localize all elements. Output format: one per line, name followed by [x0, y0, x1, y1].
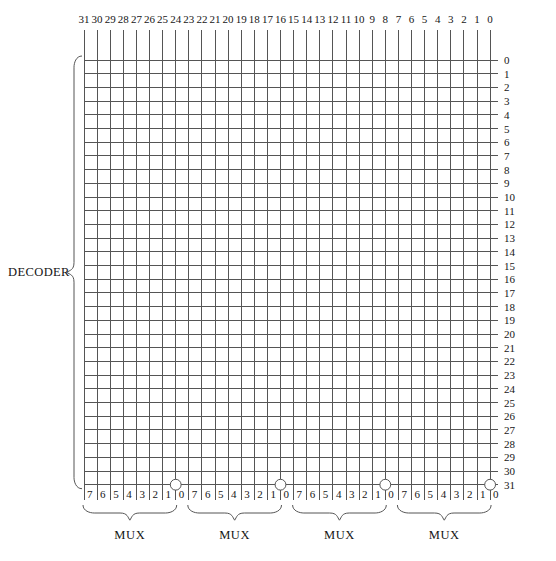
column-label: 18 [247, 14, 261, 25]
mux-brace [293, 505, 387, 520]
column-label: 4 [431, 14, 445, 25]
column-label: 22 [195, 14, 209, 25]
column-label: 12 [326, 14, 340, 25]
column-label: 30 [90, 14, 104, 25]
row-label: 16 [504, 274, 524, 285]
row-label: 21 [504, 343, 524, 354]
row-label: 29 [504, 452, 524, 463]
mux-input-label: 2 [467, 489, 480, 500]
mux-input-label: 5 [218, 489, 231, 500]
column-label: 7 [391, 14, 405, 25]
mux-input-label: 7 [297, 489, 310, 500]
row-label: 15 [504, 261, 524, 272]
row-label: 10 [504, 192, 524, 203]
column-label: 23 [182, 14, 196, 25]
row-label: 8 [504, 165, 524, 176]
row-label: 14 [504, 247, 524, 258]
column-label: 19 [234, 14, 248, 25]
mux-input-label: 6 [205, 489, 218, 500]
mux-brace [83, 505, 177, 520]
mux-input-label: 1 [480, 489, 493, 500]
mux-input-label: 4 [231, 489, 244, 500]
mux-group-label: MUX [74, 528, 186, 543]
mux-input-label: 7 [87, 489, 100, 500]
column-label: 8 [378, 14, 392, 25]
row-label: 30 [504, 466, 524, 477]
mux-input-label: 6 [100, 489, 113, 500]
mux-input-label: 0 [179, 489, 192, 500]
crossbar-diagram: 3130292827262524232221201918171615141312… [0, 0, 556, 561]
row-label: 0 [504, 55, 524, 66]
column-label: 11 [339, 14, 353, 25]
mux-input-label: 2 [362, 489, 375, 500]
column-label: 27 [129, 14, 143, 25]
mux-input-label: 5 [113, 489, 126, 500]
row-label: 2 [504, 82, 524, 93]
row-label: 18 [504, 302, 524, 313]
column-label: 2 [457, 14, 471, 25]
row-label: 9 [504, 178, 524, 189]
mux-input-label: 4 [441, 489, 454, 500]
row-label: 25 [504, 398, 524, 409]
column-label: 17 [260, 14, 274, 25]
mux-input-label: 3 [139, 489, 152, 500]
column-label: 9 [365, 14, 379, 25]
row-label: 23 [504, 370, 524, 381]
mux-brace [188, 505, 282, 520]
decoder-label: DECODER [8, 265, 70, 280]
mux-input-label: 3 [349, 489, 362, 500]
row-label: 6 [504, 137, 524, 148]
row-label: 28 [504, 439, 524, 450]
column-label: 16 [274, 14, 288, 25]
mux-input-label: 7 [192, 489, 205, 500]
mux-input-label: 5 [323, 489, 336, 500]
column-label: 26 [143, 14, 157, 25]
row-label: 13 [504, 233, 524, 244]
mux-group-label: MUX [284, 528, 396, 543]
mux-input-label: 1 [166, 489, 179, 500]
diagram-svg-layer [0, 0, 556, 561]
row-label: 5 [504, 124, 524, 135]
row-label: 1 [504, 69, 524, 80]
row-label: 3 [504, 96, 524, 107]
row-label: 7 [504, 151, 524, 162]
row-label: 24 [504, 384, 524, 395]
mux-input-label: 5 [428, 489, 441, 500]
column-label: 31 [77, 14, 91, 25]
mux-input-label: 2 [257, 489, 270, 500]
mux-input-label: 0 [388, 489, 401, 500]
column-label: 29 [103, 14, 117, 25]
column-label: 20 [221, 14, 235, 25]
column-label: 28 [116, 14, 130, 25]
mux-input-label: 0 [493, 489, 506, 500]
row-label: 31 [504, 480, 524, 491]
row-label: 12 [504, 219, 524, 230]
row-label: 11 [504, 206, 524, 217]
row-label: 26 [504, 411, 524, 422]
mux-input-label: 4 [126, 489, 139, 500]
column-label: 15 [287, 14, 301, 25]
column-label: 25 [156, 14, 170, 25]
mux-group-label: MUX [179, 528, 291, 543]
column-label: 14 [300, 14, 314, 25]
row-label: 20 [504, 329, 524, 340]
mux-group-label: MUX [388, 528, 500, 543]
mux-input-label: 0 [284, 489, 297, 500]
row-label: 17 [504, 288, 524, 299]
mux-input-label: 3 [244, 489, 257, 500]
mux-brace [397, 505, 491, 520]
column-label: 3 [444, 14, 458, 25]
row-label: 22 [504, 356, 524, 367]
row-label: 19 [504, 315, 524, 326]
mux-input-label: 7 [401, 489, 414, 500]
mux-input-label: 6 [415, 489, 428, 500]
mux-input-label: 6 [310, 489, 323, 500]
mux-input-label: 1 [270, 489, 283, 500]
column-label: 24 [169, 14, 183, 25]
row-lines-group [84, 60, 498, 485]
mux-input-label: 2 [153, 489, 166, 500]
column-label: 1 [470, 14, 484, 25]
column-label: 6 [405, 14, 419, 25]
column-label: 10 [352, 14, 366, 25]
mux-input-label: 3 [454, 489, 467, 500]
